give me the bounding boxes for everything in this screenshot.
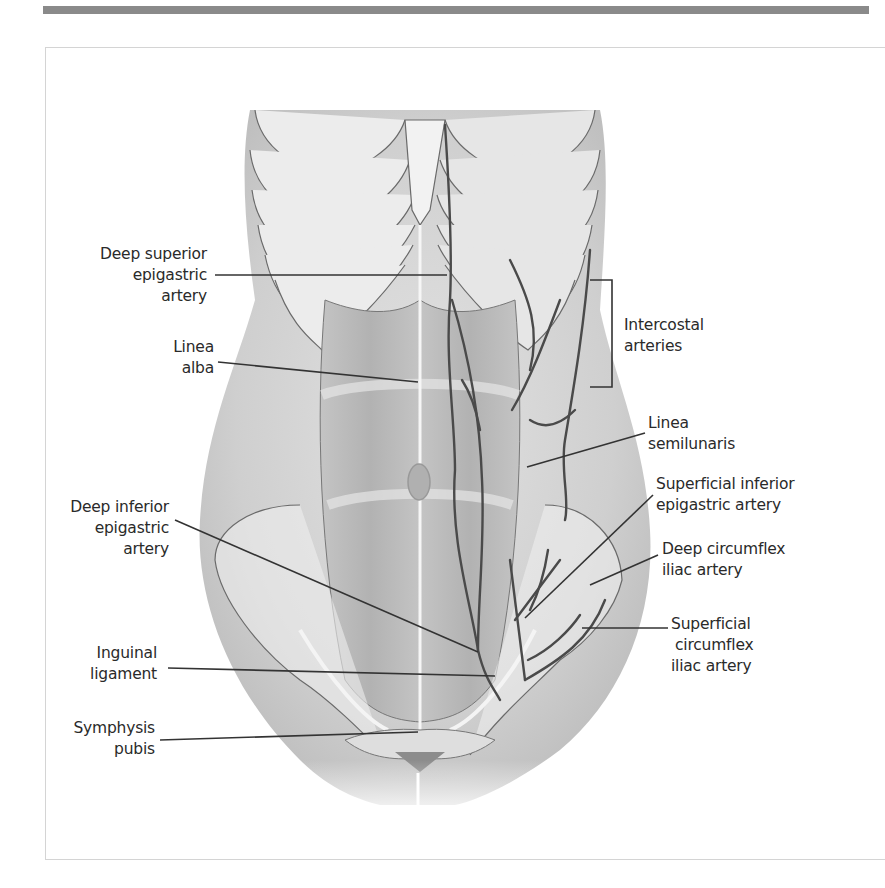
umbilicus [408,464,430,500]
label-inguinal-ligament: Inguinal ligament [90,643,157,685]
label-deep-circumflex-iliac-artery: Deep circumflex iliac artery [662,539,785,581]
label-linea-semilunaris: Linea semilunaris [648,413,735,455]
label-superficial-inferior-epigastric-artery: Superficial inferior epigastric artery [656,474,794,516]
label-superficial-circumflex-iliac-artery: Superficial circumflex iliac artery [671,614,754,677]
label-symphysis-pubis: Symphysis pubis [73,718,155,760]
label-intercostal-arteries: Intercostal arteries [624,315,704,357]
label-deep-superior-epigastric-artery: Deep superior epigastric artery [100,244,207,307]
label-deep-inferior-epigastric-artery: Deep inferior epigastric artery [70,497,169,560]
label-linea-alba: Linea alba [173,337,214,379]
